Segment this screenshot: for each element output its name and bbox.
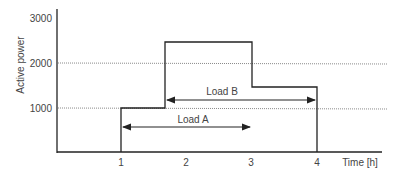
gridline-1000 — [58, 108, 387, 109]
chart-svg: 3000 2000 1000 Active power 1 2 3 4 Time… — [0, 0, 397, 176]
y-axis-label: Active power — [15, 36, 26, 94]
chart: 3000 2000 1000 Active power 1 2 3 4 Time… — [0, 0, 397, 176]
x-tick-3: 3 — [248, 157, 254, 168]
gridline-2000 — [58, 63, 387, 64]
y-tick-2000: 2000 — [30, 58, 53, 69]
x-tick-4: 4 — [314, 157, 320, 168]
load-b-label: Load B — [206, 86, 238, 97]
x-tick-2: 2 — [183, 157, 189, 168]
load-a-label: Load A — [177, 114, 208, 125]
y-tick-3000: 3000 — [30, 13, 53, 24]
load-profile-line — [121, 42, 317, 152]
y-tick-1000: 1000 — [30, 103, 53, 114]
x-tick-1: 1 — [118, 157, 124, 168]
x-axis-label: Time [h] — [342, 157, 378, 168]
